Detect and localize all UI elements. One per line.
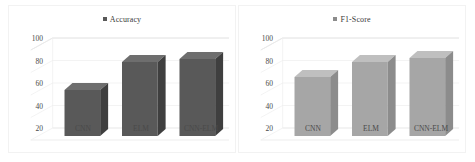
y-tick-label: 80 [266, 58, 274, 66]
y-tick-label: 80 [36, 58, 44, 66]
x-tick-label: CNN-ELM [414, 124, 448, 134]
x-tick-label: ELM [363, 124, 379, 134]
accuracy-legend: Accuracy [9, 15, 235, 25]
x-tick-label: CNN [75, 124, 91, 134]
x-tick-label: ELM [133, 124, 149, 134]
y-tick-label: 60 [36, 80, 44, 88]
y-tick-label: 40 [266, 103, 274, 111]
y-tick-label: 100 [32, 35, 43, 43]
f1-score-legend: F1-Score [239, 15, 465, 25]
figure-container: Accuracy [0, 0, 475, 162]
f1-score-legend-label: F1-Score [340, 15, 370, 25]
accuracy-chart-panel: Accuracy [8, 5, 236, 153]
x-tick-label: CNN-ELM [184, 124, 218, 134]
y-tick-label: 40 [36, 103, 44, 111]
y-tick-label: 60 [266, 80, 274, 88]
accuracy-y-axis: 100 80 60 40 20 [17, 35, 43, 127]
x-tick-label: CNN [305, 124, 321, 134]
accuracy-legend-label: Accuracy [110, 15, 141, 25]
square-marker-icon [103, 17, 107, 21]
f1-score-x-axis: CNN ELM CNN-ELM [269, 124, 459, 136]
f1-score-y-axis: 100 80 60 40 20 [247, 35, 273, 127]
accuracy-x-axis: CNN ELM CNN-ELM [39, 124, 229, 136]
square-marker-icon [333, 17, 337, 21]
f1-score-chart-panel: F1-Score [238, 5, 466, 153]
y-tick-label: 100 [262, 35, 273, 43]
